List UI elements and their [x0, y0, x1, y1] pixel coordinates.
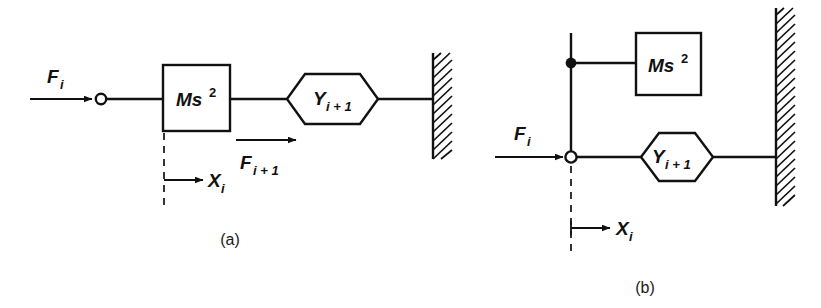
- ground-wall-a: [433, 53, 452, 159]
- force-subscript-b: i: [527, 134, 531, 149]
- junction-open-circle-a: [96, 94, 106, 104]
- force-symbol-b: F: [514, 123, 527, 144]
- force-symbol-a: F: [47, 66, 60, 87]
- output-force-label-a: F i + 1: [240, 152, 279, 178]
- displacement-label-b: X i: [615, 218, 633, 244]
- wall-hatching-a: [433, 53, 452, 159]
- input-force-label-b: F i: [514, 123, 531, 149]
- output-force-symbol-a: F: [240, 152, 253, 173]
- displacement-symbol-b: X: [615, 218, 630, 239]
- junction-open-circle-b: [565, 151, 576, 162]
- displacement-subscript-b: i: [629, 229, 633, 244]
- displacement-symbol-a: X: [207, 170, 222, 191]
- panel-a: F i Ms 2 Y i + 1: [30, 53, 452, 248]
- displacement-label-a: X i: [207, 170, 225, 196]
- wall-hatching-b: [776, 8, 795, 206]
- mass-symbol-a: Ms: [176, 89, 202, 110]
- ground-wall-b: [776, 8, 795, 206]
- input-force-label-a: F i: [47, 66, 64, 92]
- mass-exponent-a: 2: [209, 85, 216, 100]
- admittance-subscript-b: i + 1: [665, 157, 691, 172]
- panel-b: Ms 2 F i Y i + 1: [495, 8, 795, 296]
- displacement-subscript-a: i: [221, 181, 225, 196]
- output-force-subscript-a: i + 1: [253, 163, 279, 178]
- mechanical-impedance-diagram: F i Ms 2 Y i + 1: [0, 0, 821, 308]
- force-subscript-a: i: [60, 77, 64, 92]
- mass-symbol-b: Ms: [648, 55, 674, 76]
- mass-exponent-b: 2: [681, 51, 688, 66]
- panel-caption-a: (a): [220, 231, 240, 248]
- panel-caption-b: (b): [635, 279, 655, 296]
- admittance-subscript-a: i + 1: [326, 99, 352, 114]
- figure-canvas: F i Ms 2 Y i + 1: [0, 0, 821, 308]
